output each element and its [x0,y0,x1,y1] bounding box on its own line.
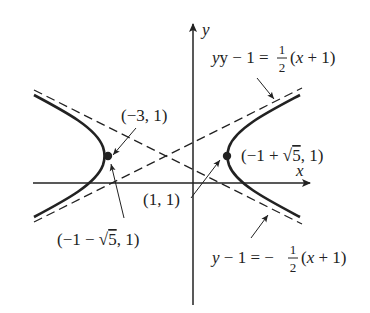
upper-asymptote-pointer [257,78,274,99]
svg-text:1: 1 [279,42,286,57]
lower-asymptote-equation: y − 1 = − 1 2 (x + 1) [210,242,346,275]
right-vertex-dot [223,152,231,160]
left-focus-pointer [111,164,124,218]
focus-right-pointer [191,160,220,198]
svg-text:2: 2 [279,60,286,75]
left-focus-label: (−1 − √5, 1) [57,230,139,249]
svg-text:(x + 1): (x + 1) [301,248,346,267]
svg-text:1: 1 [290,242,297,257]
focus-right-label: (1, 1) [143,190,180,209]
svg-text:2: 2 [290,260,297,275]
left-vertex-dot [104,152,112,160]
right-vertex-label: (−1 + √5, 1) [241,146,323,165]
y-axis-label: y [200,20,210,39]
hyperbola-diagram: x y (−3, 1) (−1 + √5, 1) (−1 − √5, 1) (1… [0,0,370,313]
svg-text:yy − 1 =: yy − 1 = [210,48,268,67]
svg-text:y − 1 = −: y − 1 = − [210,248,274,267]
hyperbola-left-branch [34,95,105,217]
left-vertex-pointer [113,128,136,155]
lower-asymptote-pointer [251,215,268,238]
upper-asymptote-equation: yy − 1 = 1 2 (x + 1) [210,42,335,75]
left-vertex-label: (−3, 1) [121,106,167,125]
svg-text:(x + 1): (x + 1) [290,48,335,67]
